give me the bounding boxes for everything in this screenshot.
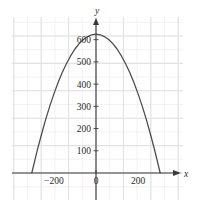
x-tick-label: 0 [94,176,99,186]
chart-background [0,0,198,213]
x-tick-label: −200 [44,176,64,186]
y-tick-label: 100 [77,146,92,156]
x-tick-label: 200 [131,176,146,186]
y-axis-label: y [94,6,100,16]
y-tick-label: 500 [77,57,92,67]
y-tick-label: 200 [77,124,92,134]
x-axis-label: x [183,169,189,179]
chart-canvas: −2000200 100200300400500600 x y [0,0,198,213]
parabola-figure: −2000200 100200300400500600 x y [0,0,198,213]
y-tick-label: 300 [77,102,92,112]
y-tick-label: 600 [77,35,92,45]
y-tick-label: 400 [77,80,92,90]
x-tick-labels: −2000200 [44,176,145,186]
